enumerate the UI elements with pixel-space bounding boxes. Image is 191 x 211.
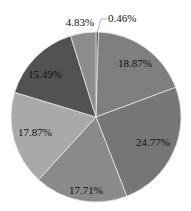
slice-label: 0.46% [108,12,136,24]
leader-lines [97,19,107,32]
leader-line [97,19,107,32]
pie-slices [11,32,181,202]
slice-label: 24.77% [136,136,170,148]
slice-label: 15.49% [28,68,62,80]
slice-label: 4.83% [66,16,94,28]
slice-label: 18.87% [118,57,152,69]
pie-chart: 0.46%18.87%24.77%17.71%17.87%15.49%4.83% [0,0,191,211]
slice-label: 17.87% [18,126,52,138]
slice-label: 17.71% [69,184,103,196]
